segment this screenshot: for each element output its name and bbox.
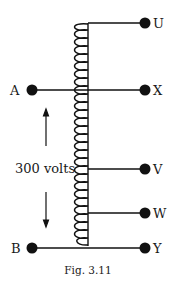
terminal-U-dot — [140, 18, 151, 29]
autotransformer-diagram: U A X V W B Y 300 volts Fig. 3.11 — [0, 0, 175, 286]
coil-loops — [75, 24, 89, 245]
terminal-W-dot — [140, 208, 151, 219]
up-arrow-head-icon — [44, 109, 49, 116]
terminal-U-label: U — [153, 16, 164, 31]
terminal-X-dot — [140, 85, 151, 96]
terminal-X-label: X — [153, 83, 163, 98]
terminal-A-label: A — [9, 83, 20, 98]
terminal-B-label: B — [11, 241, 21, 256]
figure-caption: Fig. 3.11 — [64, 264, 111, 276]
terminal-A-dot — [27, 85, 38, 96]
down-arrow-head-icon — [44, 220, 49, 227]
terminal-Y-label: Y — [152, 241, 162, 256]
terminal-V-dot — [140, 164, 151, 175]
terminal-B-dot — [27, 243, 38, 254]
terminal-V-label: V — [152, 162, 163, 177]
terminal-Y-dot — [140, 243, 151, 254]
terminal-W-label: W — [153, 206, 167, 221]
coil-winding — [75, 23, 89, 246]
voltage-label: 300 volts — [15, 161, 75, 176]
